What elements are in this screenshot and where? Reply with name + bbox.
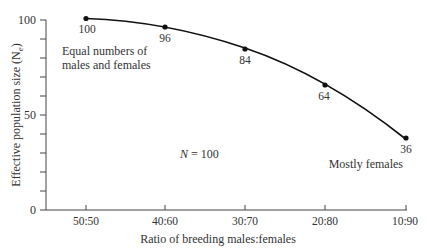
data-label: 36 bbox=[400, 143, 412, 155]
annotation-n: N = 100 bbox=[179, 147, 219, 161]
y-tick-label: 50 bbox=[24, 108, 36, 122]
y-tick-label: 0 bbox=[30, 203, 36, 217]
data-label: 64 bbox=[318, 90, 330, 102]
x-tick-label: 10:90 bbox=[392, 215, 418, 227]
annotation-mostly-females: Mostly females bbox=[329, 157, 404, 171]
data-line bbox=[86, 19, 405, 139]
chart: 0 50 100 50:50 40:60 30:70 20:80 10:90 R… bbox=[0, 0, 428, 248]
x-axis-title: Ratio of breeding males:females bbox=[140, 232, 296, 246]
annotation-equal-line1: Equal numbers of bbox=[62, 44, 147, 58]
x-ticks bbox=[86, 205, 406, 210]
x-tick-label: 30:70 bbox=[232, 215, 258, 227]
data-label: 100 bbox=[78, 23, 96, 35]
data-label: 84 bbox=[239, 54, 251, 66]
data-points bbox=[83, 16, 408, 141]
y-tick-label: 100 bbox=[18, 13, 36, 27]
x-tick-label: 40:60 bbox=[152, 215, 178, 227]
annotation-equal-line2: males and females bbox=[62, 58, 151, 72]
y-ticks bbox=[40, 20, 46, 210]
data-label: 96 bbox=[159, 32, 171, 44]
y-axis-title: Effective population size (Ne) bbox=[9, 43, 25, 186]
x-tick-label: 50:50 bbox=[73, 215, 99, 227]
x-tick-label: 20:80 bbox=[312, 215, 338, 227]
